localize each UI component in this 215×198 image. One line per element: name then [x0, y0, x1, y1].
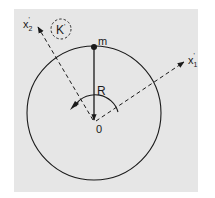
rotating-frame-diagram: K' x2' x1' m R 0: [0, 0, 215, 198]
mass-point: [91, 44, 97, 50]
radius-label: R: [97, 84, 106, 98]
frame-badge-label: K': [56, 23, 65, 37]
origin-label: 0: [96, 123, 102, 135]
mass-label: m: [98, 35, 107, 47]
